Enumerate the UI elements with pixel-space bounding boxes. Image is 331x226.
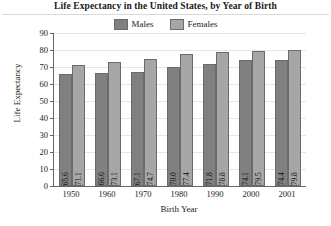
bar-males-2001: 74.4 [275, 60, 288, 186]
bar-value-label: 65.6 [62, 172, 70, 185]
bar-value-label: 79.5 [255, 172, 263, 185]
bars-container: 65.671.166.673.167.174.770.077.471.878.8… [54, 33, 306, 186]
bar-value-label: 74.7 [147, 172, 155, 185]
legend-swatch-males [114, 19, 128, 30]
bar-group: 74.479.8 [270, 33, 306, 186]
y-tick-label: 0 [44, 181, 48, 191]
chart-title: Life Expectancy in the United States, by… [0, 1, 331, 11]
bar-chart-figure: Life Expectancy in the United States, by… [0, 0, 331, 226]
bar-group: 67.174.7 [126, 33, 162, 186]
x-tick-label: 1990 [197, 189, 233, 199]
title-divider [2, 14, 329, 15]
y-tick-mark [50, 186, 54, 187]
x-axis-tick-labels: 1950196019701980199020002001 [53, 189, 305, 199]
y-tick-label: 10 [40, 164, 49, 174]
bar-females-1950: 71.1 [72, 65, 85, 186]
bar-value-label: 79.8 [291, 172, 299, 185]
bar-females-2000: 79.5 [252, 51, 265, 186]
y-axis-title: Life Expectancy [12, 43, 22, 143]
x-tick-label: 1960 [89, 189, 125, 199]
plot-area: 0102030405060708090 65.671.166.673.167.1… [53, 33, 306, 187]
bar-value-label: 71.1 [75, 172, 83, 185]
bar-value-label: 73.1 [111, 172, 119, 185]
bar-value-label: 77.4 [183, 172, 191, 185]
bar-group: 71.878.8 [198, 33, 234, 186]
legend-item-females: Females [170, 19, 218, 30]
bar-value-label: 78.8 [219, 172, 227, 185]
bar-males-2000: 74.1 [239, 60, 252, 186]
bar-males-1950: 65.6 [59, 74, 72, 186]
bar-group: 70.077.4 [162, 33, 198, 186]
bar-males-1990: 71.8 [203, 64, 216, 186]
y-tick-label: 90 [40, 28, 49, 38]
legend-swatch-females [170, 19, 184, 30]
y-tick-label: 70 [40, 62, 49, 72]
bar-value-label: 74.1 [242, 172, 250, 185]
legend-label-males: Males [132, 20, 154, 29]
bar-value-label: 74.4 [278, 172, 286, 185]
bar-males-1960: 66.6 [95, 73, 108, 186]
x-tick-label: 1970 [125, 189, 161, 199]
bar-males-1970: 67.1 [131, 72, 144, 186]
bar-value-label: 66.6 [98, 172, 106, 185]
bar-females-1960: 73.1 [108, 62, 121, 186]
bar-females-1990: 78.8 [216, 52, 229, 186]
bar-value-label: 70.0 [170, 172, 178, 185]
bar-females-1970: 74.7 [144, 59, 157, 186]
y-tick-label: 60 [40, 79, 49, 89]
bar-value-label: 71.8 [206, 172, 214, 185]
x-tick-label: 2001 [269, 189, 305, 199]
y-tick-label: 50 [40, 96, 49, 106]
y-tick-label: 30 [40, 130, 49, 140]
bar-group: 74.179.5 [234, 33, 270, 186]
x-tick-label: 1950 [53, 189, 89, 199]
legend-label-females: Females [188, 20, 218, 29]
bar-males-1980: 70.0 [167, 67, 180, 186]
legend-item-males: Males [114, 19, 154, 30]
bar-value-label: 67.1 [134, 172, 142, 185]
y-tick-label: 80 [40, 45, 49, 55]
x-tick-label: 1980 [161, 189, 197, 199]
chart-legend: Males Females [0, 18, 331, 30]
y-tick-label: 20 [40, 147, 49, 157]
x-tick-label: 2000 [233, 189, 269, 199]
y-tick-label: 40 [40, 113, 49, 123]
bar-group: 66.673.1 [90, 33, 126, 186]
x-axis-title: Birth Year [53, 204, 305, 214]
bar-females-1980: 77.4 [180, 54, 193, 186]
bar-females-2001: 79.8 [288, 50, 301, 186]
bar-group: 65.671.1 [54, 33, 90, 186]
